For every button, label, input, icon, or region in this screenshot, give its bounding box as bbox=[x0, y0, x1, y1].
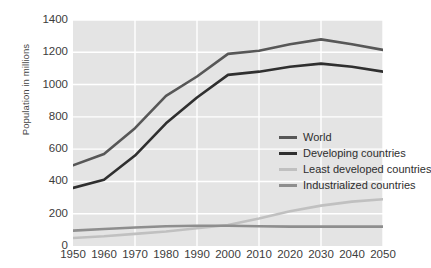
x-axis-tick-label: 2030 bbox=[308, 249, 334, 261]
x-axis-tick-labels: 1950196019701980199020002010202020302040… bbox=[73, 249, 383, 267]
series-line bbox=[73, 199, 383, 238]
y-axis-tick-label: 600 bbox=[6, 143, 68, 155]
legend-swatch-icon bbox=[279, 184, 297, 187]
x-axis-tick-label: 1980 bbox=[153, 249, 179, 261]
legend-item: World bbox=[279, 130, 431, 145]
legend-item-label: Developing countries bbox=[303, 148, 406, 159]
y-axis-tick-label: 0 bbox=[6, 240, 68, 252]
y-axis-tick-label: 400 bbox=[6, 175, 68, 187]
x-axis-tick-label: 2020 bbox=[277, 249, 303, 261]
y-axis-tick-label: 200 bbox=[6, 208, 68, 220]
legend-item-label: World bbox=[303, 132, 332, 143]
x-axis-tick-label: 1990 bbox=[184, 249, 210, 261]
legend-item-label: Least developed countries bbox=[303, 164, 431, 175]
legend-item-label: Industrialized countries bbox=[303, 180, 416, 191]
x-axis-tick-label: 2040 bbox=[339, 249, 365, 261]
x-axis-tick-label: 1950 bbox=[60, 249, 86, 261]
x-axis-tick-label: 1970 bbox=[122, 249, 148, 261]
legend-swatch-icon bbox=[279, 152, 297, 155]
y-axis-tick-labels: 0200400600800100012001400 bbox=[0, 0, 68, 268]
legend-swatch-icon bbox=[279, 136, 297, 139]
x-axis-tick-label: 2010 bbox=[246, 249, 272, 261]
x-axis-tick-label: 1960 bbox=[91, 249, 117, 261]
chart-legend: WorldDeveloping countriesLeast developed… bbox=[279, 130, 431, 194]
y-axis-tick-label: 1200 bbox=[6, 46, 68, 58]
plot-area: WorldDeveloping countriesLeast developed… bbox=[73, 20, 383, 246]
y-axis-tick-label: 800 bbox=[6, 111, 68, 123]
legend-item: Developing countries bbox=[279, 146, 431, 161]
legend-item: Least developed countries bbox=[279, 162, 431, 177]
x-axis-tick-label: 2000 bbox=[215, 249, 241, 261]
legend-item: Industrialized countries bbox=[279, 178, 431, 193]
series-line bbox=[73, 226, 383, 231]
y-axis-tick-label: 1000 bbox=[6, 79, 68, 91]
y-axis-tick-label: 1400 bbox=[6, 14, 68, 26]
x-axis-tick-label: 2050 bbox=[370, 249, 396, 261]
legend-swatch-icon bbox=[279, 168, 297, 171]
